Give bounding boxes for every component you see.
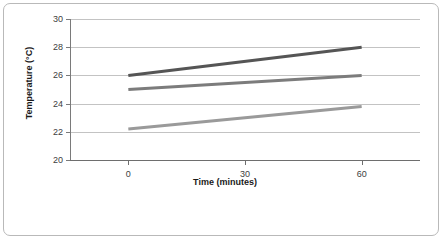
chart-figure: Temperature (°C) 202224262830 03060 Time…: [0, 0, 442, 239]
y-tick-label: 22: [53, 127, 63, 137]
x-tick-label: 60: [357, 169, 367, 179]
y-tick-label: 26: [53, 70, 63, 80]
plot-area: 202224262830 03060: [70, 19, 420, 160]
series-line-zone-2: [128, 75, 361, 89]
y-tick-label: 28: [53, 42, 63, 52]
chart-legend: Key Zone 123: [0, 196, 442, 228]
series-line-zone-1: [128, 106, 361, 129]
y-tick-label: 20: [53, 155, 63, 165]
series-line-zone-3: [128, 47, 361, 75]
y-axis-title: Temperature (°C): [24, 13, 34, 153]
y-tick-label: 30: [53, 14, 63, 24]
data-series-group: [70, 19, 420, 161]
x-axis-title: Time (minutes): [105, 177, 345, 187]
y-tick-label: 24: [53, 99, 63, 109]
